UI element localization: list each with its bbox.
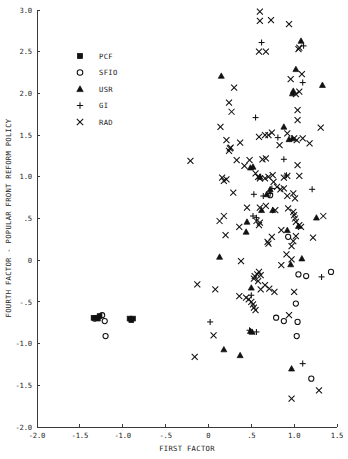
legend-marker-triangle-icon: [77, 86, 83, 92]
data-point-x: [236, 293, 242, 299]
x-tick-label: .5: [247, 431, 255, 440]
legend-item-gi[interactable]: GI: [77, 101, 108, 110]
data-point-circle: [281, 318, 286, 323]
data-point-x: [217, 124, 223, 130]
y-tick-label: 2.0: [20, 89, 32, 98]
data-point-x: [320, 213, 326, 219]
data-point-x: [253, 170, 259, 176]
data-point-circle: [309, 376, 314, 381]
data-point-x: [257, 18, 263, 24]
legend-label: SFIO: [99, 68, 118, 77]
data-point-circle: [296, 272, 301, 277]
data-point-x: [265, 132, 271, 138]
data-point-x: [221, 213, 227, 219]
data-point-x: [223, 137, 229, 143]
data-point-x: [290, 190, 296, 196]
data-point-x: [310, 235, 316, 241]
data-point-triangle: [289, 366, 295, 371]
data-point-x: [300, 135, 306, 141]
data-point-x: [187, 158, 193, 164]
data-point-circle: [286, 234, 291, 239]
data-point-x: [271, 289, 277, 295]
legend-item-sfio[interactable]: SFIO: [77, 68, 117, 77]
data-point-x: [296, 89, 302, 95]
data-point-x: [288, 76, 294, 82]
data-point-x: [263, 203, 269, 209]
data-point-x: [236, 224, 242, 230]
y-tick-label: 2.5: [20, 47, 32, 56]
series-pcf: [91, 314, 135, 323]
legend-item-usr[interactable]: USR: [77, 85, 113, 94]
data-point-x: [269, 130, 275, 136]
data-point-circle: [102, 318, 107, 323]
data-point-layer: [91, 9, 333, 402]
data-point-circle: [293, 301, 298, 306]
x-tick-label: 1.0: [288, 431, 300, 440]
legend-item-rad[interactable]: RAD: [77, 118, 113, 127]
data-point-x: [291, 289, 297, 295]
y-tick-label: -.5: [20, 298, 32, 307]
data-point-x: [295, 107, 301, 113]
data-point-plus: [309, 186, 315, 192]
data-point-triangle: [293, 66, 299, 71]
data-point-x: [289, 243, 295, 249]
data-point-circle: [295, 319, 300, 324]
series-usr: [217, 38, 326, 371]
data-point-triangle: [244, 219, 250, 224]
data-point-plus: [281, 156, 287, 162]
data-point-triangle: [281, 124, 287, 129]
data-point-x: [244, 205, 250, 211]
data-point-x: [230, 190, 236, 196]
data-point-x: [316, 387, 322, 393]
data-point-plus: [319, 274, 325, 280]
data-point-plus: [207, 319, 213, 325]
data-point-triangle: [237, 352, 243, 357]
legend: PCFSFIOUSRGIRAD: [77, 52, 118, 127]
legend-item-pcf[interactable]: PCF: [77, 52, 112, 61]
data-point-x: [286, 21, 292, 27]
data-point-circle: [294, 333, 299, 338]
data-point-x: [258, 286, 264, 292]
scatter-plot-figure: -2.0-1.5-1.0-.50.51.01.52.02.53.0 -2.0-1…: [0, 0, 348, 459]
data-point-x: [284, 130, 290, 136]
data-point-triangle: [221, 346, 227, 351]
y-axis-title: FOURTH FACTOR - POPULAR FRONT REFORM POL…: [4, 118, 13, 317]
data-point-triangle: [217, 254, 223, 259]
data-point-x: [295, 117, 301, 123]
axes: [37, 10, 337, 427]
x-axis-title: FIRST FACTOR: [159, 444, 215, 453]
data-point-x: [262, 132, 268, 138]
data-point-triangle: [319, 82, 325, 87]
data-point-x: [286, 312, 292, 318]
series-rad: [187, 9, 326, 402]
legend-label: RAD: [99, 118, 113, 127]
data-point-x: [299, 71, 305, 77]
data-point-triangle: [248, 285, 254, 290]
y-tick-label: -1.0: [15, 339, 32, 348]
data-point-x: [285, 205, 291, 211]
data-point-x: [212, 286, 218, 292]
legend-marker-plus-icon: [77, 102, 83, 108]
data-point-circle: [103, 333, 108, 338]
data-point-x: [234, 157, 240, 163]
data-point-x: [278, 262, 284, 268]
data-point-x: [256, 134, 262, 140]
data-point-plus: [251, 191, 257, 197]
legend-label: GI: [99, 101, 108, 110]
legend-marker-x-icon: [77, 119, 83, 125]
data-point-triangle: [284, 227, 290, 232]
data-point-x: [192, 354, 198, 360]
x-tick-label: 0: [206, 431, 210, 440]
data-point-square: [131, 316, 136, 321]
data-point-plus: [259, 40, 265, 46]
x-tick-label: -1.5: [72, 431, 89, 440]
data-point-x: [263, 49, 269, 55]
data-point-triangle: [243, 229, 249, 234]
data-point-circle: [274, 315, 279, 320]
data-point-triangle: [298, 38, 304, 43]
data-point-x: [277, 142, 283, 148]
data-point-x: [284, 193, 290, 199]
data-point-x: [295, 162, 301, 168]
data-point-x: [278, 227, 284, 233]
x-axis-ticks: -2.0-1.5-1.0-.50.51.01.5: [29, 424, 343, 440]
